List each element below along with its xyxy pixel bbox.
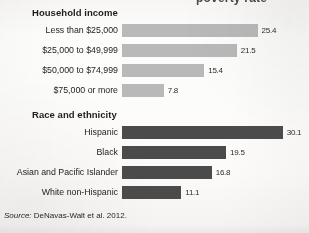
source-label: Source: bbox=[4, 211, 32, 220]
bar-track: 30.1 bbox=[122, 126, 307, 139]
bar-track: 11.1 bbox=[122, 186, 307, 199]
household-income-value-label: 25.4 bbox=[262, 26, 277, 36]
household-income-bar bbox=[122, 84, 164, 97]
bar-row: Hispanic30.1 bbox=[0, 125, 309, 145]
race-ethnicity-value-label: 11.1 bbox=[185, 188, 199, 198]
chart-title-household-income: Household income bbox=[32, 7, 118, 18]
household-income-category-label: $50,000 to $74,999 bbox=[0, 65, 118, 76]
bar-track: 25.4 bbox=[122, 24, 307, 37]
race-ethnicity-value-label: 19.5 bbox=[230, 148, 245, 158]
race-ethnicity-category-label: Hispanic bbox=[0, 127, 118, 138]
household-income-category-label: Less than $25,000 bbox=[0, 25, 118, 36]
bar-row: $50,000 to $74,99915.4 bbox=[0, 63, 309, 83]
household-income-value-label: 15.4 bbox=[208, 66, 223, 76]
household-income-category-label: $75,000 or more bbox=[0, 85, 118, 96]
source-citation: DeNavas-Walt et al. 2012. bbox=[34, 211, 127, 220]
race-ethnicity-category-label: Black bbox=[0, 147, 118, 158]
race-ethnicity-bar bbox=[122, 166, 212, 179]
household-income-category-label: $25,000 to $49,999 bbox=[0, 45, 118, 56]
household-income-bar bbox=[122, 64, 204, 77]
bar-row: $25,000 to $49,99921.5 bbox=[0, 43, 309, 63]
chart-title-race-and-ethnicity: Race and ethnicity bbox=[32, 109, 117, 120]
race-ethnicity-value-label: 16.8 bbox=[216, 168, 231, 178]
race-ethnicity-bar bbox=[122, 146, 226, 159]
race-ethnicity-value-label: 30.1 bbox=[287, 128, 302, 138]
page-edge-shading bbox=[0, 224, 309, 233]
source-note: Source: DeNavas-Walt et al. 2012. bbox=[4, 210, 127, 221]
bar-row: Asian and Pacific Islander16.8 bbox=[0, 165, 309, 185]
race-ethnicity-category-label: Asian and Pacific Islander bbox=[0, 167, 118, 178]
bar-row: $75,000 or more7.8 bbox=[0, 83, 309, 103]
bar-rows-household-income: Less than $25,00025.4$25,000 to $49,9992… bbox=[0, 23, 309, 103]
cut-off-title-fragment: poverty rate bbox=[196, 0, 292, 5]
race-ethnicity-bar bbox=[122, 186, 181, 199]
household-income-value-label: 21.5 bbox=[241, 46, 256, 56]
bar-rows-race-and-ethnicity: Hispanic30.1Black19.5Asian and Pacific I… bbox=[0, 125, 309, 205]
household-income-bar bbox=[122, 24, 258, 37]
bar-track: 15.4 bbox=[122, 64, 307, 77]
race-ethnicity-category-label: White non-Hispanic bbox=[0, 187, 118, 198]
bar-track: 16.8 bbox=[122, 166, 307, 179]
household-income-value-label: 7.8 bbox=[168, 86, 178, 96]
bar-track: 19.5 bbox=[122, 146, 307, 159]
race-ethnicity-bar bbox=[122, 126, 283, 139]
household-income-bar bbox=[122, 44, 237, 57]
bar-row: White non-Hispanic11.1 bbox=[0, 185, 309, 205]
bar-row: Black19.5 bbox=[0, 145, 309, 165]
cut-off-title-text: poverty rate bbox=[196, 0, 267, 5]
bar-track: 7.8 bbox=[122, 84, 307, 97]
bar-track: 21.5 bbox=[122, 44, 307, 57]
bar-row: Less than $25,00025.4 bbox=[0, 23, 309, 43]
chart-page: poverty rate Household income Less than … bbox=[0, 0, 309, 233]
